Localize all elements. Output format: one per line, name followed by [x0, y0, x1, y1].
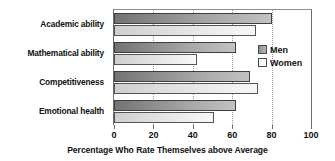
x-tick-label-60: 60 [227, 130, 237, 140]
legend-label-women: Women [270, 58, 302, 68]
legend-item-women: Women [258, 57, 316, 68]
bar-men-1 [114, 42, 236, 53]
y-axis-label-0: Academic ability [0, 19, 104, 29]
bar-men-0 [114, 13, 272, 24]
y-axis-label-1: Mathematical ability [0, 48, 104, 58]
x-axis-title: Percentage Who Rate Themselves above Ave… [0, 145, 335, 155]
x-tick-100 [311, 125, 312, 129]
bar-men-3 [114, 100, 236, 111]
legend: Men Women [258, 44, 316, 70]
x-tick-label-20: 20 [148, 130, 158, 140]
y-axis-label-3: Emotional health [0, 106, 104, 116]
x-tick-40 [193, 125, 194, 129]
bar-chart: Academic ability Mathematical ability Co… [0, 0, 335, 161]
women-swatch-icon [258, 58, 267, 67]
legend-item-men: Men [258, 44, 316, 55]
x-tick-60 [232, 125, 233, 129]
legend-label-men: Men [270, 45, 288, 55]
x-tick-80 [272, 125, 273, 129]
x-tick-label-100: 100 [303, 130, 318, 140]
bar-women-3 [114, 112, 214, 123]
x-tick-0 [114, 125, 115, 129]
men-swatch-icon [258, 45, 267, 54]
x-tick-label-80: 80 [267, 130, 277, 140]
bar-men-2 [114, 71, 250, 82]
x-axis-tick-labels: 020406080100 [113, 130, 312, 143]
x-tick-20 [153, 125, 154, 129]
x-tick-label-40: 40 [188, 130, 198, 140]
x-tick-label-0: 0 [111, 130, 116, 140]
bar-women-0 [114, 25, 256, 36]
y-axis-label-2: Competitiveness [0, 77, 104, 87]
bar-women-1 [114, 54, 197, 65]
y-axis-category-labels: Academic ability Mathematical ability Co… [0, 9, 108, 125]
bar-women-2 [114, 83, 258, 94]
